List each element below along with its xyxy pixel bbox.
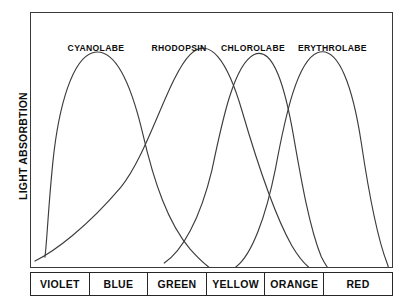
band-cell-yellow: YELLOW xyxy=(207,273,266,295)
series-label-cyanolabe: CYANOLABE xyxy=(68,43,125,53)
band-cell-violet: VIOLET xyxy=(31,273,90,295)
absorption-spectra-figure: LIGHT ABSORBTION CYANOLABE RHODOPSIN CHL… xyxy=(0,0,405,306)
band-cell-orange: ORANGE xyxy=(265,273,324,295)
curve-cyanolabe xyxy=(45,52,226,267)
y-axis-title: LIGHT ABSORBTION xyxy=(17,76,29,216)
series-label-rhodopsin: RHODOPSIN xyxy=(151,43,206,53)
band-cell-red: RED xyxy=(324,273,392,295)
spectrum-band-axis: VIOLET BLUE GREEN YELLOW ORANGE RED xyxy=(30,272,393,296)
band-cell-green: GREEN xyxy=(148,273,207,295)
band-cell-blue: BLUE xyxy=(90,273,149,295)
plot-area: CYANOLABE RHODOPSIN CHLOROLABE ERYTHROLA… xyxy=(30,12,393,268)
curve-rhodopsin xyxy=(35,48,329,267)
series-label-chlorolabe: CHLOROLABE xyxy=(221,43,285,53)
series-label-erythrolabe: ERYTHROLABE xyxy=(298,43,367,53)
curve-chlorolabe xyxy=(164,53,335,267)
